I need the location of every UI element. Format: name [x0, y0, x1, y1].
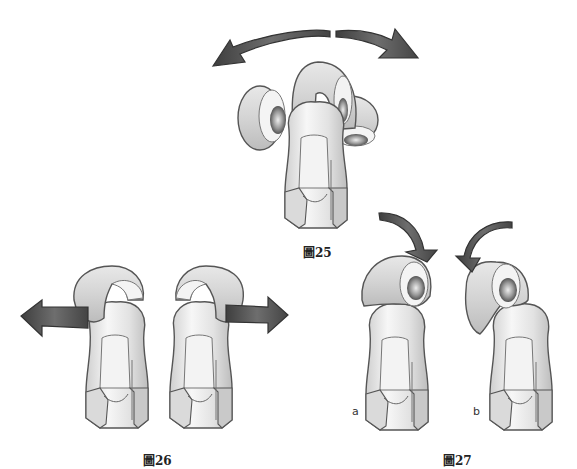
bone-segment-a [366, 304, 428, 430]
cartilage-cap-a [362, 256, 431, 306]
figure-25-caption: 圖25 [303, 243, 332, 260]
figure-25 [213, 29, 418, 228]
figure-27-caption: 圖27 [443, 451, 472, 468]
figure-27-label-a: a [352, 405, 359, 418]
bone-segment-b [490, 304, 552, 430]
rotation-arrow-icon [213, 29, 418, 66]
cartilage-disc-left [238, 86, 286, 150]
figure-27 [362, 213, 552, 430]
figure-26 [21, 266, 288, 428]
illustration-canvas [0, 0, 577, 469]
figure-26-caption: 圖26 [143, 451, 172, 468]
tilt-arrow-forward-icon [379, 213, 437, 262]
figure-27-label-b: b [473, 405, 480, 418]
bone-segment [285, 102, 347, 228]
